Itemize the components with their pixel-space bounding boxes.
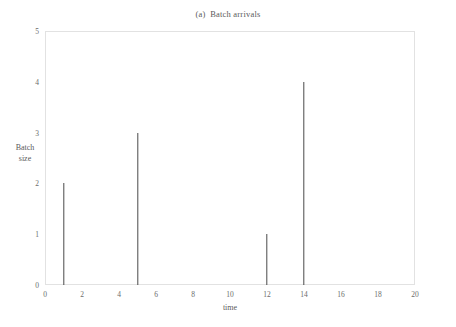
x-axis-label: time <box>45 303 415 312</box>
y-axis-tick-label: 5 <box>35 27 39 36</box>
x-axis-tick-label: 6 <box>154 290 158 299</box>
y-axis-tick-label: 2 <box>35 179 39 188</box>
chart-title: (a) Batch arrivals <box>0 9 456 19</box>
x-axis-tick-label: 12 <box>263 290 271 299</box>
x-axis-tick-label: 14 <box>300 290 308 299</box>
y-axis-label: Batch size <box>8 142 42 164</box>
data-spike <box>137 133 138 285</box>
x-axis-tick-label: 0 <box>43 290 47 299</box>
data-spike <box>303 82 304 285</box>
x-axis-tick-label: 10 <box>226 290 234 299</box>
data-spike <box>63 183 64 285</box>
data-spike <box>266 234 267 285</box>
y-axis-tick-label: 4 <box>35 77 39 86</box>
x-axis-tick-label: 20 <box>411 290 419 299</box>
x-axis-tick-label: 18 <box>374 290 382 299</box>
y-axis-label-line-2: size <box>8 153 42 164</box>
y-axis-label-line-1: Batch <box>8 142 42 153</box>
y-axis-tick-label: 0 <box>35 281 39 290</box>
x-axis-tick-label: 16 <box>337 290 345 299</box>
figure: (a) Batch arrivals 012345024681012141618… <box>0 0 456 327</box>
x-axis-tick-label: 4 <box>117 290 121 299</box>
plot-area: 01234502468101214161820 <box>45 31 415 285</box>
y-axis-tick-label: 1 <box>35 230 39 239</box>
y-axis-tick-label: 3 <box>35 128 39 137</box>
x-axis-tick-label: 8 <box>191 290 195 299</box>
x-axis-tick-label: 2 <box>80 290 84 299</box>
